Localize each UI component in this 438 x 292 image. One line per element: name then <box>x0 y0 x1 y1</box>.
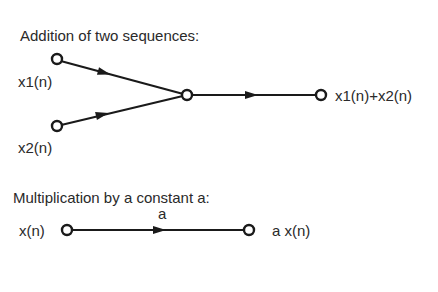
node-mult-input <box>62 225 72 235</box>
branch-x1 <box>57 60 187 95</box>
node-sum <box>182 90 192 100</box>
signal-flow-graph <box>0 0 438 292</box>
arrow-icon <box>97 67 112 78</box>
arrow-icon <box>245 91 258 99</box>
node-x1 <box>52 54 62 64</box>
arrow-icon <box>153 226 166 234</box>
node-mult-output <box>244 225 254 235</box>
node-x2 <box>52 121 62 131</box>
node-sum-output <box>316 90 326 100</box>
branch-x2 <box>57 95 187 126</box>
